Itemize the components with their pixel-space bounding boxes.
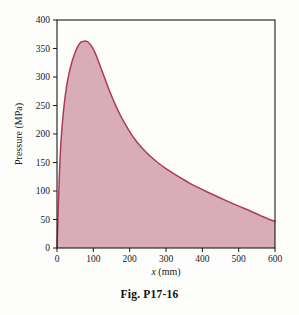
y-axis-ticks (53, 20, 57, 248)
x-axis-tick-labels: 0100200300400500600 (55, 254, 283, 264)
curve-area-fill (57, 41, 275, 248)
y-axis-tick-labels: 050100150200250300350400 (36, 15, 51, 253)
y-axis-tick-label: 200 (36, 129, 51, 139)
x-axis-tick-label: 600 (268, 254, 283, 264)
y-axis-tick-label: 150 (36, 158, 51, 168)
x-axis-title-units: (mm) (156, 266, 181, 278)
chart-plot-area: 050100150200250300350400 010020030040050… (0, 0, 299, 285)
y-axis-tick-label: 100 (36, 186, 51, 196)
figure-container: 050100150200250300350400 010020030040050… (0, 0, 299, 315)
pressure-vs-x-chart: 050100150200250300350400 010020030040050… (0, 0, 299, 285)
x-axis-tick-label: 500 (232, 254, 247, 264)
figure-caption: Fig. P17-16 (0, 288, 299, 300)
x-axis-tick-label: 100 (86, 254, 101, 264)
x-axis-tick-label: 300 (159, 254, 174, 264)
x-axis-title: x (mm) (150, 266, 180, 278)
y-axis-title: Pressure (MPa) (13, 103, 25, 165)
y-axis-tick-label: 50 (41, 215, 51, 225)
y-axis-tick-label: 300 (36, 72, 51, 82)
y-axis-tick-label: 350 (36, 44, 51, 54)
y-axis-tick-label: 0 (45, 243, 50, 253)
x-axis-tick-label: 400 (195, 254, 210, 264)
y-axis-tick-label: 250 (36, 101, 51, 111)
x-axis-tick-label: 200 (123, 254, 138, 264)
x-axis-ticks (57, 248, 275, 252)
x-axis-tick-label: 0 (55, 254, 60, 264)
y-axis-tick-label: 400 (36, 15, 51, 25)
